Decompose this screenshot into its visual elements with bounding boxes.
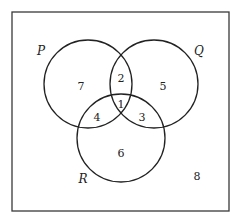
venn-diagram: P Q R 7 5 6 2 4 3 1 8 [0,0,242,222]
region-r-only: 6 [118,147,125,160]
set-p-label: P [36,44,46,58]
set-q-label: Q [194,44,204,58]
region-outside: 8 [194,170,201,183]
region-p-only: 7 [78,80,85,93]
region-p-q-r: 1 [118,98,125,111]
set-r-label: R [77,172,87,186]
region-p-and-r: 4 [94,111,101,124]
region-p-and-q: 2 [118,72,125,85]
region-q-only: 5 [160,80,167,93]
region-q-and-r: 3 [139,111,146,124]
